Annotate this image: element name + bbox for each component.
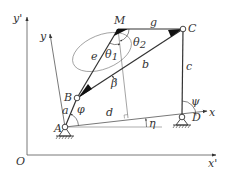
label-C: C	[188, 22, 197, 35]
origin-label: O	[16, 155, 25, 168]
ground-pivot-D	[173, 114, 191, 128]
label-psi: ψ	[191, 95, 200, 108]
label-beta: β	[110, 77, 117, 90]
x-prime-label: x'	[208, 157, 217, 170]
gusset-B	[78, 84, 92, 98]
right-angle-mark	[124, 115, 128, 119]
label-a: a	[62, 104, 69, 117]
gusset-C	[168, 29, 182, 37]
label-eta: η	[149, 117, 156, 130]
label-phi: φ	[77, 103, 85, 116]
eta-arc	[146, 119, 147, 128]
label-B: B	[63, 91, 72, 104]
rocker-c	[182, 29, 183, 115]
label-M: M	[113, 14, 126, 27]
x-label: x	[209, 106, 216, 119]
label-g: g	[150, 16, 157, 29]
joint-B	[74, 95, 80, 101]
label-c: c	[186, 60, 192, 73]
label-theta1: θ1	[105, 48, 118, 62]
perpendicular-line	[118, 29, 128, 118]
label-b: b	[142, 58, 149, 71]
label-A: A	[53, 122, 62, 135]
label-e: e	[91, 50, 98, 63]
four-bar-linkage-diagram: O x' y' x y	[0, 0, 229, 177]
label-d: d	[106, 106, 113, 119]
coupler-curve	[67, 25, 137, 80]
joints	[56, 26, 191, 139]
y-label: y	[39, 30, 47, 43]
joint-C	[180, 26, 186, 32]
label-theta2: θ2	[133, 36, 146, 50]
label-D: D	[191, 111, 201, 124]
theta1-arc	[109, 43, 120, 45]
y-prime-label: y'	[12, 12, 22, 25]
